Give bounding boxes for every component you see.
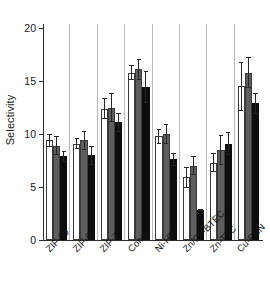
y-tick-mark (39, 240, 43, 241)
y-tick-mark (39, 81, 43, 82)
x-axis-tick-labels: ZIF-90ZIF-8ZIF-7ConicNi-HFZn/Co-BTECZn-T… (0, 0, 270, 303)
x-tick-label: Conic (126, 230, 150, 254)
y-tick-mark (39, 28, 43, 29)
x-tick-label: ZIF-8 (71, 231, 94, 254)
x-tick-label: ZIF-7 (98, 231, 121, 254)
y-tick-mark (39, 187, 43, 188)
y-tick-mark (39, 134, 43, 135)
x-tick-label: Cu-PCN (235, 222, 267, 254)
x-tick-label: Ni-HF (153, 229, 177, 253)
selectivity-bar-chart: Selectivity 05101520 ZIF-90ZIF-8ZIF-7Con… (0, 0, 270, 303)
x-tick-label: ZIF-90 (44, 227, 71, 254)
